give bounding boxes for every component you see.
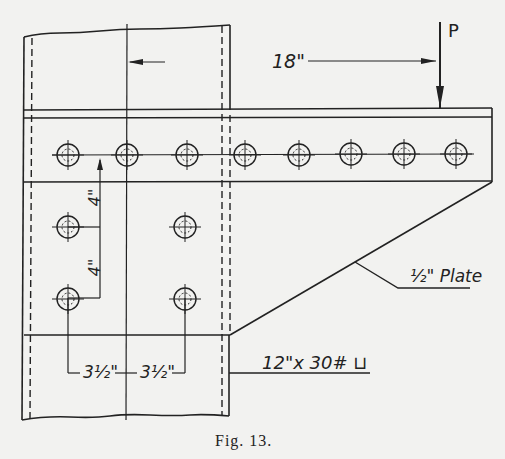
dimension-4-top: 4" (85, 189, 104, 207)
bolt (52, 212, 84, 242)
column-left-edge (22, 37, 24, 420)
bracket-drawing (0, 0, 505, 459)
bolt (335, 139, 367, 169)
bolt (169, 284, 201, 314)
dimension-3-5-left: 3½" (83, 362, 118, 382)
bolt (52, 140, 84, 170)
plate-edge (230, 182, 492, 335)
dimension-4-bottom: 4" (85, 259, 104, 277)
bolt (171, 140, 203, 170)
bolt (388, 139, 420, 169)
center-line (126, 24, 127, 420)
bolt (111, 140, 143, 170)
load-label: P (448, 20, 459, 41)
dimension-18: 18" (272, 50, 305, 72)
figure-caption: Fig. 13. (215, 432, 272, 450)
plate-callout: ½" Plate (410, 266, 482, 286)
bolt (283, 140, 315, 170)
bolt (440, 139, 472, 169)
channel-callout: 12"x 30# ⊔ (262, 352, 367, 373)
bolt (229, 140, 261, 170)
bolt (169, 212, 201, 242)
dimension-3-5-right: 3½" (140, 362, 175, 382)
bolt (52, 284, 84, 314)
